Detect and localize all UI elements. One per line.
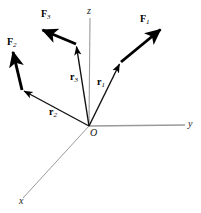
label-position-r3: r3	[70, 72, 78, 82]
label-axis-x: x	[19, 196, 23, 206]
position-vector-r3	[77, 47, 90, 127]
label-axis-y: y	[188, 119, 192, 129]
diagram-canvas	[0, 0, 201, 213]
label-position-r1: r1	[97, 77, 105, 87]
label-axis-z: z	[87, 6, 91, 16]
force-vector-F3	[43, 30, 77, 44]
label-force-F3: F3	[41, 9, 51, 19]
label-force-F1: F1	[140, 14, 150, 24]
label-origin: O	[90, 128, 97, 138]
label-force-F2: F2	[7, 37, 17, 47]
force-vector-F1	[121, 30, 161, 63]
position-vector-r1	[89, 64, 120, 126]
z-axis-line	[89, 18, 90, 126]
vector-diagram-figure: F1 F2 F3 r1 r2 r3 z y x O	[0, 0, 201, 213]
x-axis-line	[23, 126, 89, 198]
label-position-r2: r2	[49, 107, 57, 117]
y-axis-line	[89, 125, 185, 126]
force-vector-F2	[13, 52, 22, 90]
